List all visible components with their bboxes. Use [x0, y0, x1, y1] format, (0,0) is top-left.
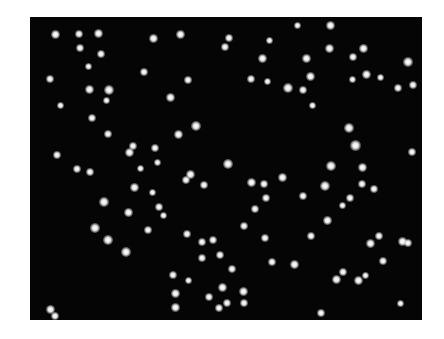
bright-spot — [53, 151, 61, 159]
bright-spot — [171, 303, 180, 312]
bright-spot — [216, 251, 224, 259]
bright-spot — [144, 226, 152, 234]
bright-spot — [88, 114, 96, 122]
bright-spot — [228, 265, 236, 273]
bright-spot — [359, 44, 368, 53]
bright-spot — [151, 144, 159, 152]
bright-spot — [85, 85, 94, 94]
bright-spot — [326, 161, 336, 171]
bright-spot — [209, 236, 217, 244]
bright-spot — [76, 44, 84, 52]
micrograph-image — [30, 17, 422, 320]
bright-spot — [160, 212, 167, 219]
bright-spot — [349, 53, 357, 61]
bright-spot — [104, 85, 114, 95]
bright-spot — [124, 208, 133, 217]
bright-spot — [51, 312, 59, 320]
bright-spot — [268, 258, 276, 266]
bright-spot — [171, 289, 180, 298]
bright-spot — [239, 287, 248, 296]
bright-spot — [299, 192, 307, 200]
bright-spot — [379, 257, 387, 265]
bright-spot — [362, 70, 371, 79]
bright-spot — [366, 239, 375, 248]
bright-spot — [174, 130, 183, 139]
bright-spot — [302, 54, 311, 63]
bright-spot — [375, 232, 383, 240]
bright-spot — [394, 84, 402, 92]
bright-spot — [358, 180, 366, 188]
bright-spot — [323, 216, 332, 225]
bright-spot — [205, 293, 213, 301]
bright-spot — [403, 57, 413, 67]
bright-spot — [362, 272, 369, 279]
bright-spot — [104, 130, 112, 138]
bright-spot — [262, 194, 270, 202]
bright-spot — [57, 102, 64, 109]
bright-spot — [325, 44, 334, 53]
bright-spot — [339, 202, 346, 209]
bright-spot — [261, 234, 269, 242]
bright-spot — [309, 102, 316, 109]
bright-spot — [397, 300, 404, 307]
bright-spot — [377, 74, 384, 81]
bright-spot — [198, 238, 206, 246]
bright-spot — [408, 148, 416, 156]
bright-spot — [221, 43, 229, 51]
bright-spot — [344, 123, 354, 133]
bright-spot — [182, 176, 190, 184]
bright-spot — [346, 194, 354, 202]
bright-spot — [260, 180, 268, 188]
bright-spot — [103, 97, 110, 104]
bright-spot — [200, 181, 208, 189]
bright-spot — [176, 30, 185, 39]
bright-spot — [370, 185, 378, 193]
bright-spot — [94, 29, 103, 38]
bright-spot — [97, 50, 105, 58]
bright-spot — [294, 22, 301, 29]
bright-spot — [240, 222, 248, 230]
bright-spot — [85, 63, 92, 70]
bright-spot — [169, 271, 177, 279]
bright-spot — [191, 121, 201, 131]
bright-spot — [258, 54, 267, 63]
bright-spot — [184, 76, 192, 84]
bright-spot — [223, 159, 233, 169]
bright-spot — [332, 275, 341, 284]
bright-spot — [51, 30, 60, 39]
bright-spot — [218, 283, 227, 292]
bright-spot — [125, 148, 134, 157]
bright-spot — [46, 75, 54, 83]
bright-spot — [140, 68, 148, 76]
bright-spot — [299, 86, 307, 94]
bright-spot — [166, 93, 175, 102]
bright-spot — [185, 277, 192, 284]
bright-spot — [339, 268, 347, 276]
bright-spot — [278, 173, 287, 182]
bright-spot — [404, 239, 412, 247]
bright-spot — [103, 235, 113, 245]
bright-spot — [198, 254, 206, 262]
bright-spot — [266, 37, 273, 44]
bright-spot — [307, 232, 315, 240]
bright-spot — [215, 304, 223, 312]
bright-spot — [225, 34, 233, 42]
bright-spot — [247, 178, 256, 187]
bright-spot — [90, 223, 100, 233]
bright-spot — [326, 21, 335, 30]
bright-spot — [73, 165, 81, 173]
bright-spot — [75, 30, 83, 38]
bright-spot — [354, 276, 363, 285]
bright-spot — [290, 260, 299, 269]
bright-spot — [130, 183, 139, 192]
bright-spot — [317, 309, 325, 317]
bright-spot — [137, 165, 144, 172]
bright-spot — [247, 75, 255, 83]
bright-spot — [149, 189, 156, 196]
bright-spot — [183, 230, 191, 238]
bright-spot — [99, 197, 109, 207]
bright-spot — [149, 34, 158, 43]
bright-spot — [264, 78, 271, 85]
bright-spot — [154, 159, 161, 166]
bright-spot — [121, 247, 131, 257]
